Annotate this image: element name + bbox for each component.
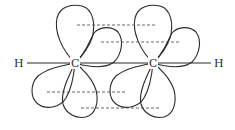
atom-label-c1: C [71,57,79,70]
c2-upper-lobe [134,5,171,63]
c2-upper-right-lobe [153,28,199,67]
c2-lower-left-lobe [110,63,153,107]
c1-upper-right-lobe [75,28,121,67]
c1-lower-left-lobe [32,63,75,107]
c1-lower-lobe [62,63,97,117]
acetylene-pi-orbital-diagram: H C C H [0,0,235,130]
c1-upper-lobe [56,5,93,63]
atom-label-h2: H [214,57,224,70]
atom-label-c2: C [149,57,157,70]
atom-label-h1: H [14,57,24,70]
c2-lower-lobe [140,63,175,117]
